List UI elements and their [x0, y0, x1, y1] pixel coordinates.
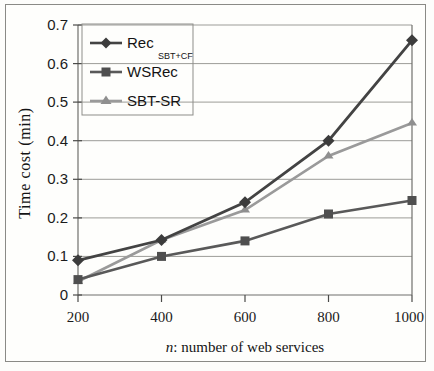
y-tick-label-0: 0 — [60, 286, 68, 303]
x-axis-title-variable: n — [166, 339, 174, 355]
marker-diamond-400 — [156, 234, 168, 246]
x-tick-label-200: 200 — [67, 309, 90, 325]
y-tick-label-0.4: 0.4 — [47, 132, 68, 149]
x-tick-label-600: 600 — [234, 309, 257, 325]
x-tickmarks — [78, 295, 412, 302]
chart-legend: Rec SBT+CF WSRec SBT-SR — [82, 24, 193, 115]
x-tick-labels: 200 400 600 800 1000 — [67, 309, 424, 325]
legend-sublabel-rec: SBT+CF — [158, 51, 193, 61]
y-tick-labels: 0.7 0.6 0.5 0.4 0.3 0.2 0.1 0 — [47, 16, 68, 303]
y-tick-label-0.6: 0.6 — [47, 55, 68, 72]
figure-container: 0.7 0.6 0.5 0.4 0.3 0.2 0.1 0 200 400 60… — [0, 0, 434, 371]
x-tick-label-400: 400 — [150, 309, 173, 325]
y-tick-label-0.1: 0.1 — [47, 247, 68, 264]
y-axis-title: Time cost (min) — [16, 107, 34, 219]
y-tick-label-0.7: 0.7 — [47, 16, 68, 33]
x-axis-title-rest: : number of web services — [173, 339, 324, 355]
y-tick-label-0.2: 0.2 — [47, 209, 68, 226]
x-axis-title: n: number of web services — [166, 339, 324, 355]
marker-square-200 — [74, 275, 83, 284]
marker-square-400 — [157, 252, 166, 261]
y-tick-label-0.3: 0.3 — [47, 170, 68, 187]
legend-marker-square-icon — [102, 68, 111, 77]
x-tick-label-1000: 1000 — [394, 309, 424, 325]
marker-square-1000 — [408, 196, 417, 205]
x-tick-label-800: 800 — [317, 309, 340, 325]
y-tick-label-0.5: 0.5 — [47, 93, 68, 110]
marker-square-800 — [324, 210, 333, 219]
legend-label-sbt-sr: SBT-SR — [127, 92, 181, 109]
legend-label-rec: Rec — [127, 34, 154, 51]
marker-triangle-1000 — [407, 118, 417, 126]
time-cost-line-chart: 0.7 0.6 0.5 0.4 0.3 0.2 0.1 0 200 400 60… — [0, 0, 434, 371]
marker-square-600 — [241, 236, 250, 245]
legend-label-wsrec: WSRec — [127, 63, 178, 80]
